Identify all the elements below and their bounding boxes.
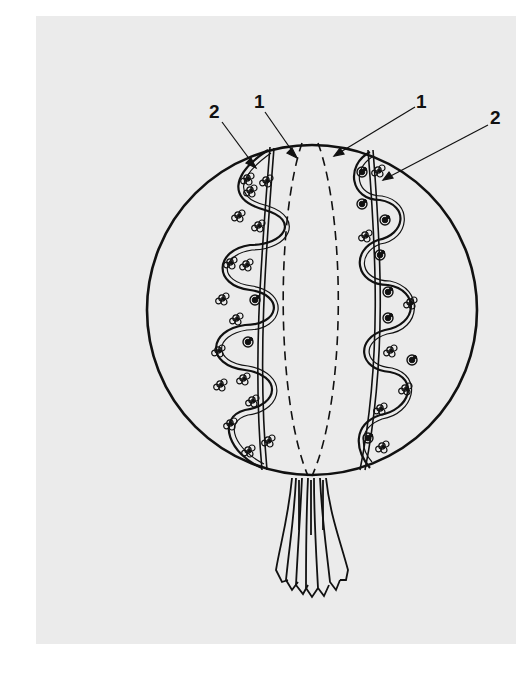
left-spiral-chain — [212, 147, 290, 470]
label-1-left: 1 — [254, 91, 265, 112]
label-2-right: 2 — [490, 107, 501, 128]
sphere-outline — [147, 145, 477, 475]
stalk-tassel — [276, 478, 348, 597]
diagram: 2 1 1 2 — [0, 0, 516, 673]
label-2-left: 2 — [209, 101, 220, 122]
label-1-right: 1 — [416, 91, 427, 112]
dashed-meridians — [283, 143, 338, 476]
right-spiral-chain — [354, 150, 417, 470]
